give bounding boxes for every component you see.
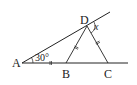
label-D: D <box>80 13 89 27</box>
label-B: B <box>62 67 70 81</box>
angle-A-label: 30° <box>35 52 49 63</box>
angle-arc-A <box>32 58 34 64</box>
angle-x-label: x <box>93 21 99 32</box>
geometry-diagram: A B C D 30° x <box>0 0 137 85</box>
tick-marks <box>50 41 100 65</box>
label-C: C <box>104 67 112 81</box>
label-A: A <box>12 56 21 70</box>
